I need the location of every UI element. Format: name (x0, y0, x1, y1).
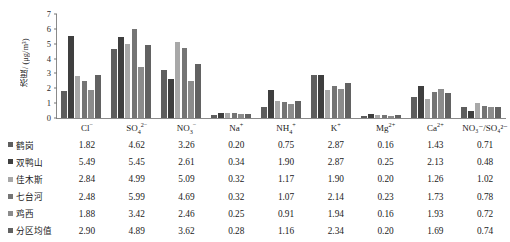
bar (188, 81, 194, 118)
table-cell: 1.43 (410, 137, 460, 154)
bar (75, 76, 81, 118)
bar (288, 104, 294, 118)
table-cell: 0.23 (361, 188, 411, 205)
bar (311, 75, 317, 118)
y-tick-mark-4 (54, 58, 57, 59)
bar (325, 90, 331, 118)
bar (182, 48, 188, 118)
bar (145, 45, 151, 118)
y-tick-mark-3 (54, 73, 57, 74)
legend-swatch-icon (8, 177, 13, 182)
y-tick-mark-1 (54, 103, 57, 104)
bar (82, 81, 88, 118)
column-header-1: SO42− (112, 120, 162, 137)
bar (495, 107, 501, 118)
bar-group (256, 14, 306, 118)
table-row: 佳木斯2.844.995.090.321.171.900.201.261.02 (0, 171, 510, 188)
table-cell: 5.99 (112, 188, 162, 205)
bar (295, 101, 301, 118)
bar (245, 114, 251, 118)
bar (125, 44, 131, 118)
bar-group (106, 14, 156, 118)
bar (211, 115, 217, 118)
bar (232, 113, 238, 118)
bar (61, 91, 67, 118)
bar (238, 114, 244, 118)
table-cell: 4.62 (112, 137, 162, 154)
legend-cell-3: 七台河 (0, 188, 62, 205)
bar-group (356, 14, 406, 118)
bar (432, 92, 438, 118)
bars-container (56, 14, 506, 118)
table-cell: 2.61 (162, 154, 212, 171)
table-row: 七台河2.485.994.690.321.072.140.231.730.78 (0, 188, 510, 205)
bar (111, 49, 117, 118)
bar-group (156, 14, 206, 118)
bar (88, 90, 94, 118)
legend-cell-0: 鹤岗 (0, 137, 62, 154)
bar (395, 115, 401, 118)
table-cell: 2.34 (311, 222, 361, 239)
table-header-row: Cl−SO42−NO3−Na+NH4+K+Mg2+Ca2+NO₃⁻/SO₄²⁻ (0, 120, 510, 137)
bar (261, 107, 267, 118)
table-corner-cell (0, 120, 62, 137)
bar-group (306, 14, 356, 118)
bar (361, 116, 367, 118)
table-cell: 2.14 (311, 188, 361, 205)
table-cell: 0.20 (361, 222, 411, 239)
bar (438, 89, 444, 118)
y-tick-mark-2 (54, 88, 57, 89)
table-cell: 5.49 (62, 154, 112, 171)
y-tick-label-4: 4 (33, 54, 51, 63)
bar (282, 102, 288, 118)
table-cell: 1.02 (460, 171, 510, 188)
chart-plot-region: 浓度/ (μg/m³) 01234567 (0, 0, 510, 126)
bar (411, 97, 417, 118)
bar-group (406, 14, 456, 118)
table-cell: 0.34 (211, 154, 261, 171)
bar-group (456, 14, 506, 118)
data-table: Cl−SO42−NO3−Na+NH4+K+Mg2+Ca2+NO₃⁻/SO₄²⁻ … (0, 120, 510, 239)
y-tick-label-1: 1 (33, 99, 51, 108)
bar (175, 42, 181, 118)
table-cell: 2.87 (311, 154, 361, 171)
table-cell: 0.78 (460, 188, 510, 205)
bar (425, 99, 431, 118)
bar (475, 103, 481, 118)
table-cell: 0.16 (361, 205, 411, 222)
legend-label: 佳木斯 (16, 172, 43, 188)
y-axis-tick-labels: 01234567 (36, 14, 54, 118)
column-header-2: NO3− (162, 120, 212, 137)
bar (338, 89, 344, 118)
bar (195, 64, 201, 118)
table-cell: 2.46 (162, 205, 212, 222)
bar (225, 113, 231, 118)
table-cell: 0.71 (460, 137, 510, 154)
bar (445, 93, 451, 118)
bar-group (206, 14, 256, 118)
table-cell: 3.62 (162, 222, 212, 239)
table-cell: 1.73 (410, 188, 460, 205)
legend-swatch-icon (8, 142, 13, 147)
table-row: 鸡西1.883.422.460.250.911.940.161.930.72 (0, 205, 510, 222)
y-axis-title-text: 浓度/ (μg/m³) (20, 39, 30, 87)
table-cell: 0.16 (361, 137, 411, 154)
data-table-region: Cl−SO42−NO3−Na+NH4+K+Mg2+Ca2+NO₃⁻/SO₄²⁻ … (0, 120, 510, 242)
bar (345, 83, 351, 118)
table-cell: 1.93 (410, 205, 460, 222)
bar (488, 107, 494, 118)
y-tick-mark-6 (54, 28, 57, 29)
legend-swatch-icon (8, 194, 13, 199)
bar (368, 114, 374, 118)
table-cell: 4.99 (112, 171, 162, 188)
table-cell: 0.32 (211, 188, 261, 205)
legend-label: 七台河 (16, 189, 43, 205)
bar (118, 37, 124, 118)
table-cell: 1.26 (410, 171, 460, 188)
table-cell: 2.13 (410, 154, 460, 171)
table-cell: 0.48 (460, 154, 510, 171)
legend-label: 鸡西 (16, 206, 34, 222)
table-cell: 0.32 (211, 171, 261, 188)
bar (482, 106, 488, 118)
table-cell: 0.74 (460, 222, 510, 239)
